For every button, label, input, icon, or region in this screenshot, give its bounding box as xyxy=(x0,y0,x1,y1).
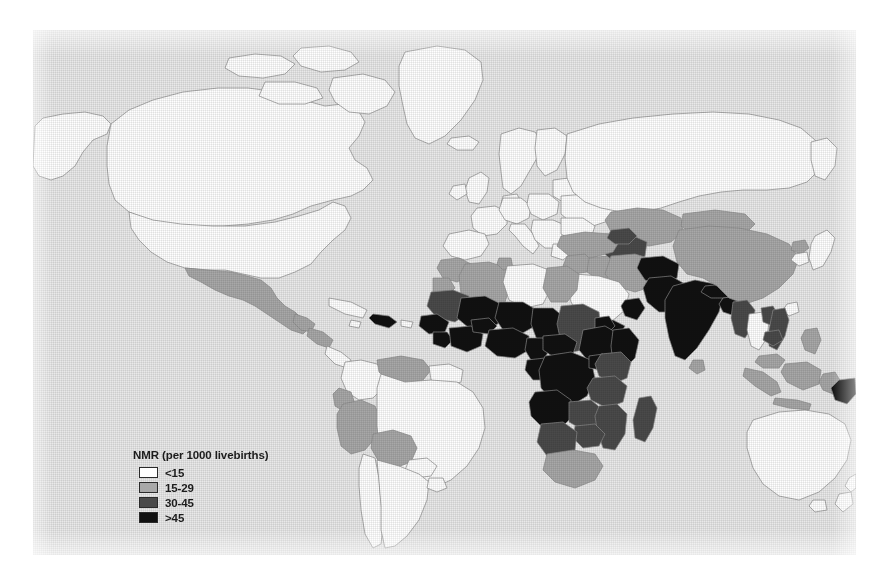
legend-swatch-gt45 xyxy=(139,512,158,523)
legend-swatch-30-45 xyxy=(139,497,158,508)
legend-label-30-45: 30-45 xyxy=(165,497,194,509)
legend-swatch-lt15 xyxy=(139,467,158,478)
region-north-america xyxy=(33,46,483,368)
country-nigeria[interactable] xyxy=(485,328,529,358)
country-sumatra[interactable] xyxy=(743,368,781,396)
country-canada-arctic-1[interactable] xyxy=(225,54,295,78)
legend-item-30-45[interactable]: 30-45 xyxy=(139,495,319,510)
country-new-zealand-south[interactable] xyxy=(835,492,853,512)
country-uruguay[interactable] xyxy=(427,478,447,492)
country-spain-portugal[interactable] xyxy=(443,230,489,260)
country-japan[interactable] xyxy=(809,230,835,270)
country-new-zealand-north[interactable] xyxy=(845,474,856,492)
region-south-america xyxy=(333,356,485,548)
legend-label-15-29: 15-29 xyxy=(165,482,194,494)
legend-title: NMR (per 1000 livebirths) xyxy=(133,449,319,461)
legend-swatch-15-29 xyxy=(139,482,158,493)
country-iceland[interactable] xyxy=(447,136,479,150)
country-mexico[interactable] xyxy=(185,268,309,334)
country-oman[interactable] xyxy=(621,298,645,320)
legend-label-gt45: >45 xyxy=(165,512,184,524)
country-borneo[interactable] xyxy=(781,362,821,390)
country-jamaica[interactable] xyxy=(349,320,361,328)
country-canada-arctic-2[interactable] xyxy=(293,46,359,72)
nmr-world-map-figure: NMR (per 1000 livebirths) <15 15-29 30-4… xyxy=(0,0,879,583)
country-ireland[interactable] xyxy=(449,184,467,200)
map-legend: NMR (per 1000 livebirths) <15 15-29 30-4… xyxy=(129,449,319,525)
legend-item-lt15[interactable]: <15 xyxy=(139,465,319,480)
country-madagascar[interactable] xyxy=(633,396,657,442)
country-south-africa[interactable] xyxy=(543,450,603,488)
legend-label-lt15: <15 xyxy=(165,467,184,479)
country-russia[interactable] xyxy=(565,112,823,212)
legend-item-gt45[interactable]: >45 xyxy=(139,510,319,525)
country-cuba[interactable] xyxy=(329,298,367,318)
country-finland[interactable] xyxy=(535,128,567,176)
country-alaska[interactable] xyxy=(33,112,111,180)
country-puerto-rico[interactable] xyxy=(401,320,413,328)
country-tasmania[interactable] xyxy=(809,500,827,512)
country-sri-lanka[interactable] xyxy=(689,360,705,374)
map-plate: NMR (per 1000 livebirths) <15 15-29 30-4… xyxy=(33,30,856,555)
country-australia[interactable] xyxy=(747,410,851,500)
country-malaysia[interactable] xyxy=(755,354,785,368)
country-poland[interactable] xyxy=(527,194,559,220)
legend-item-15-29[interactable]: 15-29 xyxy=(139,480,319,495)
country-hispaniola[interactable] xyxy=(369,314,397,328)
country-united-kingdom[interactable] xyxy=(465,172,489,204)
country-java[interactable] xyxy=(773,398,811,410)
country-philippines[interactable] xyxy=(801,328,821,354)
country-greenland[interactable] xyxy=(399,46,483,144)
country-kamchatka[interactable] xyxy=(811,138,837,180)
region-oceania xyxy=(747,410,856,512)
country-honduras-nicaragua[interactable] xyxy=(307,328,333,348)
